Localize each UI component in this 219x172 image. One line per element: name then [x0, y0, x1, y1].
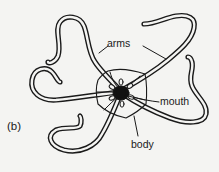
panel-label: (b): [7, 121, 21, 133]
leader-body: [134, 116, 138, 136]
brittle-star-diagram: arms mouth body (b): [0, 0, 219, 172]
label-mouth: mouth: [160, 96, 189, 107]
leader-arms-right: [143, 46, 166, 59]
arm-lower-left: [50, 95, 120, 151]
arm-upper-right: [122, 16, 194, 91]
diagram-drawing: [0, 0, 219, 172]
label-body: body: [131, 139, 154, 150]
label-arms: arms: [107, 38, 130, 49]
